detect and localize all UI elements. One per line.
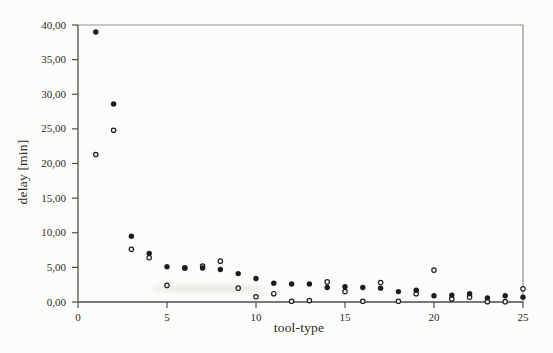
data-point-filled (93, 29, 98, 34)
data-point-filled (342, 284, 347, 289)
data-point-open (236, 286, 240, 290)
data-point-filled (396, 289, 401, 294)
data-point-open (289, 299, 293, 303)
x-tick-label: 5 (164, 311, 170, 323)
data-point-filled (289, 281, 294, 286)
data-point-open (396, 299, 400, 303)
data-point-filled (307, 281, 312, 286)
scatter-chart: 0,005,0010,0015,0020,0025,0030,0035,0040… (0, 0, 553, 353)
data-point-filled (271, 281, 276, 286)
x-tick-label: 25 (518, 311, 530, 323)
data-point-filled (449, 292, 454, 297)
data-point-filled (431, 293, 436, 298)
x-tick-label: 10 (251, 311, 263, 323)
data-point-filled (218, 267, 223, 272)
y-tick-label: 40,00 (41, 19, 66, 31)
data-point-filled (467, 291, 472, 296)
data-point-open (503, 299, 507, 303)
y-tick-label: 15,00 (41, 192, 66, 204)
scatter-figure: 0,005,0010,0015,0020,0025,0030,0035,0040… (0, 0, 553, 353)
data-point-open (325, 280, 329, 284)
y-tick-label: 20,00 (41, 157, 66, 169)
y-tick-label: 35,00 (41, 53, 66, 65)
y-tick-label: 0,00 (47, 296, 67, 308)
data-point-filled (360, 285, 365, 290)
data-point-open (361, 299, 365, 303)
data-point-filled (253, 276, 258, 281)
data-point-open (272, 291, 276, 295)
data-point-open (432, 268, 436, 272)
data-point-open (111, 128, 115, 132)
data-point-filled (378, 285, 383, 290)
data-point-filled (485, 295, 490, 300)
data-point-open (378, 280, 382, 284)
data-point-filled (414, 288, 419, 293)
data-point-open (521, 287, 525, 291)
data-point-filled (111, 101, 116, 106)
data-point-filled (182, 265, 187, 270)
data-point-filled (503, 293, 508, 298)
data-point-filled (200, 265, 205, 270)
x-tick-label: 15 (340, 311, 352, 323)
data-point-filled (325, 285, 330, 290)
data-point-open (129, 247, 133, 251)
y-axis-title: delay [min] (15, 140, 31, 205)
x-tick-label: 0 (75, 311, 81, 323)
data-point-open (165, 283, 169, 287)
data-point-filled (520, 294, 525, 299)
data-point-filled (147, 251, 152, 256)
data-point-open (307, 298, 311, 302)
y-tick-label: 10,00 (41, 226, 66, 238)
data-point-filled (164, 264, 169, 269)
data-point-open (343, 289, 347, 293)
x-tick-label: 20 (429, 311, 441, 323)
data-point-open (218, 259, 222, 263)
data-point-open (254, 295, 258, 299)
data-point-filled (129, 234, 134, 239)
y-tick-label: 5,00 (47, 261, 67, 273)
y-tick-label: 30,00 (41, 88, 66, 100)
x-axis-title: tool-type (274, 320, 325, 336)
data-point-open (94, 152, 98, 156)
y-tick-label: 25,00 (41, 122, 66, 134)
data-point-filled (236, 271, 241, 276)
